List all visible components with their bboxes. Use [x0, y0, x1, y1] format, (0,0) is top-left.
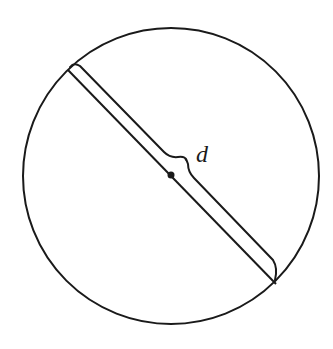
brace-label: d	[196, 141, 209, 167]
center-point	[168, 172, 175, 179]
brace-d	[70, 64, 276, 280]
diagram-canvas: d	[0, 0, 333, 349]
